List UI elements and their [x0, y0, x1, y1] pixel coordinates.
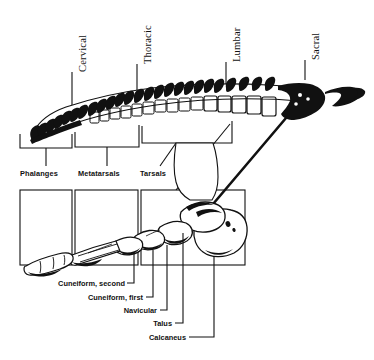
- spine-label-thoracic: Thoracic: [143, 25, 154, 64]
- bracket-tarsals-region: [142, 121, 232, 143]
- spine-label-sacral: Sacral: [311, 33, 322, 60]
- spine-label-cervical: Cervical: [78, 35, 89, 72]
- bracket-metatarsals-region: [75, 125, 139, 147]
- bone-label-navicular: Navicular: [100, 307, 157, 314]
- leader-cuneiform-second: [127, 253, 134, 283]
- region-label-phalanges: Phalanges: [20, 170, 58, 177]
- sacrum-and-coccyx: [278, 83, 365, 120]
- leader-cuneiform-first: [146, 250, 153, 297]
- spine-label-lumbar: Lumbar: [232, 28, 243, 62]
- bone-label-cuneiform-second: Cuneiform, second: [55, 280, 125, 287]
- leader-calcaneus: [189, 256, 214, 337]
- stem-tarsals: [160, 143, 176, 166]
- leader-talus: [175, 233, 183, 323]
- vertebral-column-drawing: [30, 77, 365, 144]
- leader-navicular: [160, 245, 167, 310]
- region-label-metatarsals: Metatarsals: [78, 170, 120, 177]
- bone-label-cuneiform-first: Cuneiform, first: [70, 294, 143, 301]
- region-label-tarsals: Tarsals: [140, 170, 166, 177]
- bone-label-calcaneus: Calcaneus: [125, 334, 186, 341]
- bone-label-talus: Talus: [130, 320, 172, 327]
- ankle-shaft-outline: [174, 143, 218, 200]
- phalanges-bones: [24, 253, 73, 275]
